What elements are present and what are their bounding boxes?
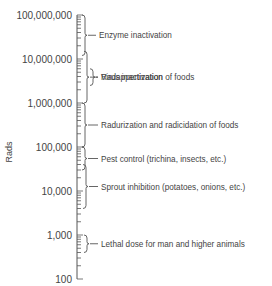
range-brackets: Enzyme inactivationVirus inactivationRad…: [82, 15, 246, 253]
bracket: [82, 103, 87, 147]
bracket: [84, 235, 89, 253]
range-label: Sprout inhibition (potatoes, onions, etc…: [101, 183, 246, 192]
y-tick-label: 100,000,000: [16, 10, 72, 21]
range-item: Pest control (trichina, insects, etc.): [82, 147, 226, 170]
range-label: Enzyme inactivation: [99, 31, 172, 40]
y-tick-label: 10,000,000: [22, 54, 72, 65]
bracket: [82, 15, 87, 56]
dose-range-chart: Rads 100,000,00010,000,0001,000,000100,0…: [0, 0, 272, 286]
y-axis-title: Rads: [4, 141, 14, 163]
y-tick-label: 1,000: [47, 230, 72, 241]
range-item: Sprout inhibition (potatoes, onions, etc…: [83, 165, 246, 209]
range-label: Radurization and radicidation of foods: [101, 121, 238, 130]
range-label: Radappertization of foods: [101, 73, 194, 82]
range-item: Enzyme inactivation: [82, 15, 172, 56]
bracket: [83, 165, 88, 209]
range-item: Radappertization of foods: [90, 69, 194, 86]
range-item: Radurization and radicidation of foods: [82, 103, 238, 147]
y-tick-label: 100: [55, 274, 72, 285]
range-item: Lethal dose for man and higher animals: [84, 235, 245, 253]
range-label: Lethal dose for man and higher animals: [101, 240, 245, 249]
y-tick-label: 100,000: [36, 142, 73, 153]
y-tick-label: 1,000,000: [28, 98, 73, 109]
y-tick-labels: 100,000,00010,000,0001,000,000100,00010,…: [16, 10, 72, 285]
bracket: [84, 51, 89, 103]
range-label: Pest control (trichina, insects, etc.): [101, 155, 226, 164]
y-tick-label: 10,000: [41, 186, 72, 197]
